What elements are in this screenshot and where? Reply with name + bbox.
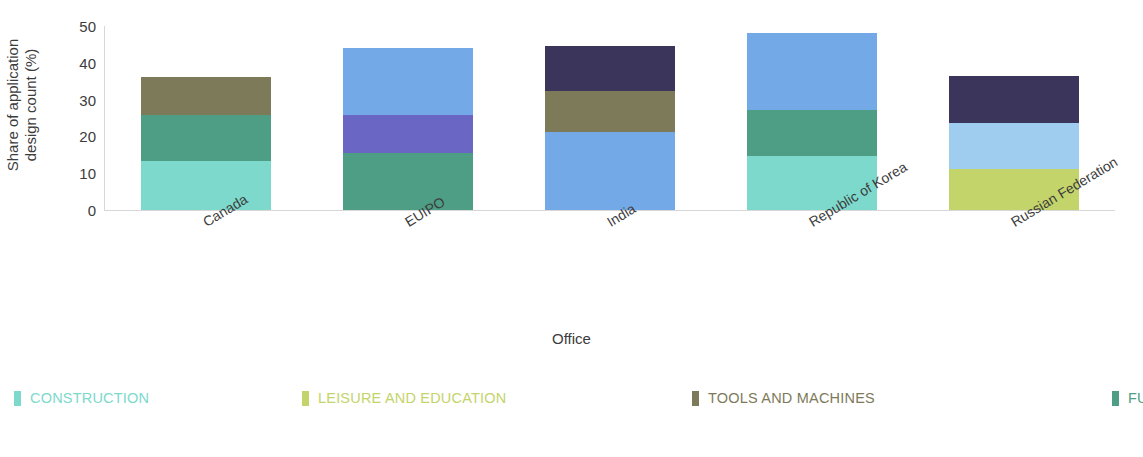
x-axis-title: Office bbox=[0, 330, 1143, 347]
bars-layer bbox=[105, 26, 1115, 210]
bar-segment[interactable] bbox=[343, 48, 473, 115]
legend-item[interactable]: CONSTRUCTION bbox=[14, 390, 302, 406]
bar-segment[interactable] bbox=[141, 77, 271, 115]
bar-segment[interactable] bbox=[545, 91, 675, 132]
chart-legend: CONSTRUCTIONLEISURE AND EDUCATIONTOOLS A… bbox=[14, 386, 1124, 410]
y-tick-label: 30 bbox=[79, 91, 96, 108]
y-tick-label: 40 bbox=[79, 54, 96, 71]
y-axis-title: Share of application design count (%) bbox=[4, 5, 40, 205]
legend-label: CONSTRUCTION bbox=[30, 390, 149, 406]
bar-segment[interactable] bbox=[141, 115, 271, 161]
legend-item[interactable]: LEISURE AND EDUCATION bbox=[302, 390, 692, 406]
legend-swatch-icon bbox=[692, 391, 699, 406]
bar-segment[interactable] bbox=[545, 46, 675, 92]
bar-group[interactable] bbox=[141, 77, 271, 210]
legend-label: FURNITURE AND HOUSEHOLD GOODS bbox=[1128, 390, 1143, 406]
bar-group[interactable] bbox=[545, 46, 675, 210]
legend-swatch-icon bbox=[302, 391, 309, 406]
bar-segment[interactable] bbox=[949, 76, 1079, 123]
bar-segment[interactable] bbox=[343, 115, 473, 153]
bar-segment[interactable] bbox=[747, 33, 877, 110]
legend-label: LEISURE AND EDUCATION bbox=[318, 390, 506, 406]
bar-segment[interactable] bbox=[949, 123, 1079, 169]
legend-swatch-icon bbox=[1112, 391, 1119, 406]
legend-item[interactable]: FURNITURE AND HOUSEHOLD GOODS bbox=[1112, 390, 1143, 406]
bar-segment[interactable] bbox=[141, 161, 271, 210]
y-tick-label: 0 bbox=[88, 202, 96, 219]
y-tick-label: 50 bbox=[79, 18, 96, 35]
y-tick-label: 10 bbox=[79, 165, 96, 182]
legend-item[interactable]: TOOLS AND MACHINES bbox=[692, 390, 1112, 406]
bar-group[interactable] bbox=[343, 48, 473, 210]
bar-segment[interactable] bbox=[343, 153, 473, 210]
plot-area: 01020304050 CanadaEUIPOIndiaRepublic of … bbox=[104, 26, 1115, 211]
stacked-bar-chart: Share of application design count (%) 01… bbox=[0, 0, 1143, 380]
bar-segment[interactable] bbox=[747, 110, 877, 156]
y-tick-label: 20 bbox=[79, 128, 96, 145]
legend-swatch-icon bbox=[14, 391, 21, 406]
legend-label: TOOLS AND MACHINES bbox=[708, 390, 875, 406]
bar-segment[interactable] bbox=[545, 132, 675, 210]
